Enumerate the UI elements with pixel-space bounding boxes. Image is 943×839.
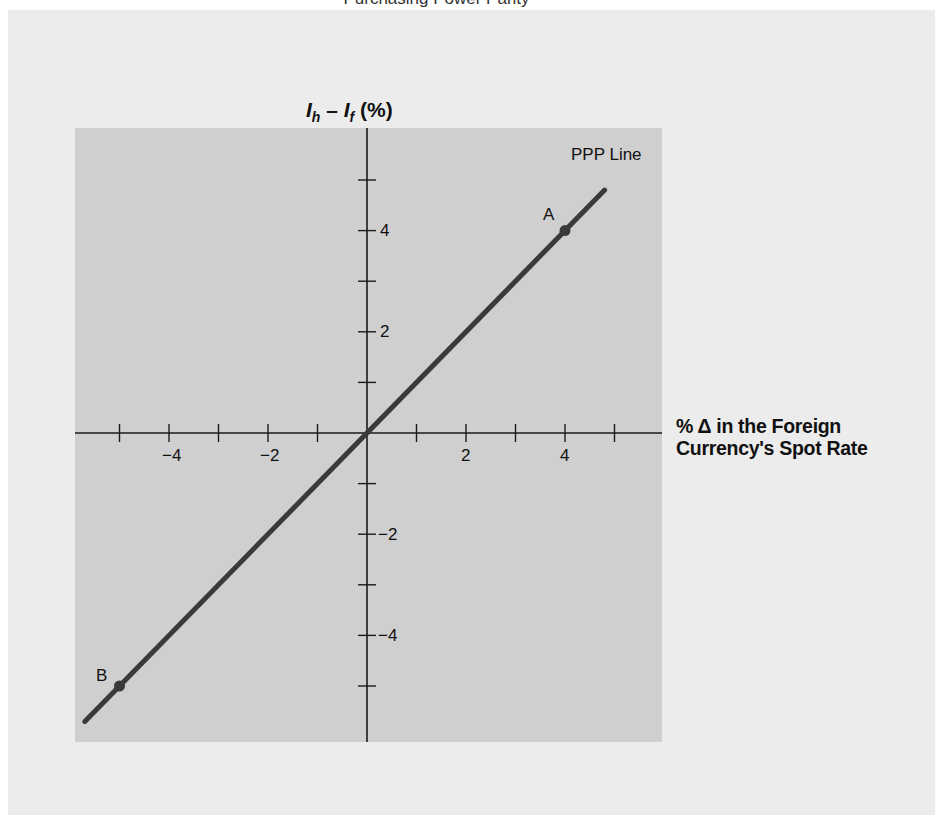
ppp-line-label: PPP Line xyxy=(571,145,642,165)
point-b-label: B xyxy=(96,666,107,686)
x-tick-label: 4 xyxy=(560,446,569,466)
y-tick-label: −4 xyxy=(378,626,397,646)
point-b-marker xyxy=(114,681,125,692)
y-tick-label: −2 xyxy=(378,525,397,545)
x-tick-label: 2 xyxy=(461,446,470,466)
x-axis-label: % Δ in the Foreign Currency's Spot Rate xyxy=(676,415,916,459)
x-tick-label: −2 xyxy=(260,446,279,466)
x-tick-label: −4 xyxy=(162,446,181,466)
point-a-label: A xyxy=(543,205,554,225)
y-tick-label: 4 xyxy=(380,221,389,241)
point-a-marker xyxy=(560,225,571,236)
y-tick-label: 2 xyxy=(380,322,389,342)
y-axis-label: Ih – If (%) xyxy=(306,98,393,125)
